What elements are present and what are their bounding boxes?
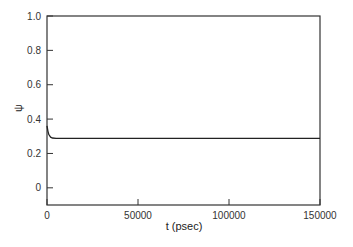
y-axis-ticks: 00.20.40.60.81.0 xyxy=(27,11,53,194)
x-axis-ticks: 050000100000150000 xyxy=(44,199,337,221)
y-tick-label: 0.4 xyxy=(27,114,41,125)
plot-border xyxy=(47,16,320,205)
y-tick-label: 1.0 xyxy=(27,11,41,22)
y-tick-label: 0.2 xyxy=(27,148,41,159)
data-series xyxy=(47,126,320,138)
y-tick-label: 0 xyxy=(35,182,41,193)
x-tick-label: 0 xyxy=(44,210,50,221)
y-axis-label: ψ xyxy=(12,104,24,112)
y-tick-label: 0.6 xyxy=(27,79,41,90)
y-tick-label: 0.8 xyxy=(27,45,41,56)
x-tick-label: 50000 xyxy=(124,210,152,221)
x-axis-label: t (psec) xyxy=(166,220,203,232)
x-tick-label: 100000 xyxy=(212,210,246,221)
series-line xyxy=(47,126,320,138)
plot-frame xyxy=(47,16,320,205)
x-tick-label: 150000 xyxy=(303,210,337,221)
chart: 00.20.40.60.81.0 050000100000150000 t (p… xyxy=(0,0,353,247)
